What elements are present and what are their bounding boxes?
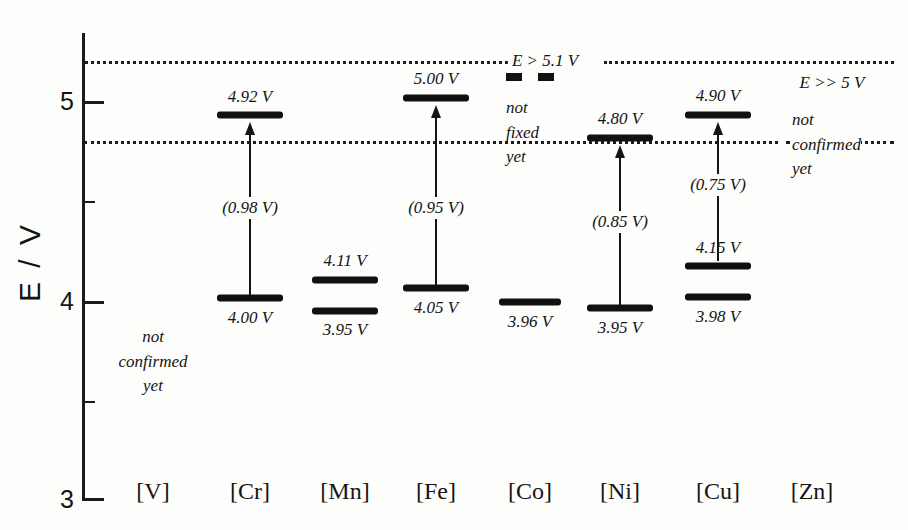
value-label-fe-high: 5.00 V (414, 69, 458, 89)
note-zn: not confirmed yet (792, 108, 861, 182)
value-label-mn-high: 4.11 V (323, 251, 366, 271)
note-v-line3: yet (119, 374, 188, 399)
note-zn-line2: confirmed (792, 133, 861, 158)
note-zn-line1: not (792, 108, 861, 133)
category-label-ni: [Ni] (600, 478, 640, 505)
value-label-cr-high: 4.92 V (228, 87, 272, 107)
level-bar-fe-low (403, 285, 469, 292)
level-bar-mn-high (312, 277, 378, 284)
value-label-ni-low: 3.95 V (598, 318, 642, 338)
gap-label-cu: (0.75 V) (687, 174, 749, 196)
annotation-co-limit: E > 5.1 V (508, 51, 582, 71)
upper-guide-line-left (84, 61, 522, 64)
level-bar-ni-low (587, 305, 653, 312)
level-bar-cu-low (685, 294, 751, 301)
value-label-co-low: 3.96 V (508, 312, 552, 332)
note-v-line1: not (119, 325, 188, 350)
level-bar-co-low (499, 299, 561, 306)
arrow-head-cr (245, 122, 255, 135)
level-bar-cr-low (217, 295, 283, 302)
gap-label-cr: (0.98 V) (219, 197, 281, 219)
y-tick-5 (82, 101, 104, 104)
value-label-cu-low: 3.98 V (696, 307, 740, 327)
value-label-mn-low: 3.95 V (323, 320, 367, 340)
category-label-co: [Co] (508, 478, 552, 505)
upper-guide-line-right (604, 61, 894, 64)
y-tick-label-3: 3 (34, 485, 74, 514)
level-bar-ni-high (587, 135, 653, 142)
value-label-cr-low: 4.00 V (228, 308, 272, 328)
annotation-zn-limit: E >> 5 V (800, 73, 865, 93)
level-bar-cr-high (217, 112, 283, 119)
level-bar-cu-mid (685, 263, 751, 270)
arrow-head-cu (713, 122, 723, 135)
y-tick-4 (82, 301, 104, 304)
note-v-line2: confirmed (119, 350, 188, 375)
y-tick-label-5: 5 (34, 87, 74, 116)
category-label-mn: [Mn] (320, 478, 369, 505)
gap-label-ni: (0.85 V) (589, 211, 651, 233)
level-bar-mn-low (312, 308, 378, 315)
arrow-head-ni (615, 145, 625, 158)
category-label-zn: [Zn] (791, 478, 834, 505)
note-co: not fixed yet (506, 96, 539, 170)
note-zn-line3: yet (792, 157, 861, 182)
category-label-v: [V] (136, 478, 169, 505)
level-bar-co-dashed (506, 73, 554, 81)
arrow-head-fe (431, 105, 441, 118)
lower-guide-line-left (84, 141, 778, 144)
note-co-line1: not (506, 96, 539, 121)
category-label-fe: [Fe] (416, 478, 456, 505)
energy-level-diagram: 5 4 3 E / V not confirmed yet 4.92 V (0.… (0, 0, 908, 530)
y-axis-foot (82, 498, 104, 501)
y-axis-title: E / V (13, 152, 47, 372)
y-tick-4-5 (82, 201, 95, 203)
note-v: not confirmed yet (119, 325, 188, 399)
note-co-line2: fixed (506, 121, 539, 146)
category-label-cr: [Cr] (230, 478, 270, 505)
note-co-line3: yet (506, 145, 539, 170)
value-label-fe-low: 4.05 V (414, 298, 458, 318)
level-bar-cu-high (685, 112, 751, 119)
gap-label-fe: (0.95 V) (405, 197, 467, 219)
category-label-cu: [Cu] (696, 478, 740, 505)
level-bar-fe-high (403, 95, 469, 102)
value-label-cu-high: 4.90 V (696, 86, 740, 106)
y-tick-3-5 (82, 401, 95, 403)
value-label-ni-high: 4.80 V (598, 109, 642, 129)
value-label-cu-mid: 4.15 V (696, 238, 740, 258)
